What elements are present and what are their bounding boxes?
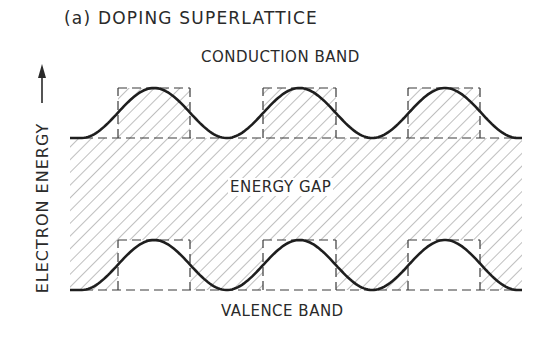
figure-title: (a) DOPING SUPERLATTICE (64, 8, 318, 28)
conduction-band-label: CONDUCTION BAND (201, 48, 360, 66)
doping-superlattice-figure: (a) DOPING SUPERLATTICE CONDUCTION BAND … (0, 0, 552, 344)
y-axis-label: ELECTRON ENERGY (33, 123, 52, 294)
valence-band-label: VALENCE BAND (221, 302, 344, 320)
valence-band-edge-curve (70, 240, 522, 290)
energy-gap-label: ENERGY GAP (228, 178, 333, 196)
arrow-up-icon (38, 64, 46, 103)
